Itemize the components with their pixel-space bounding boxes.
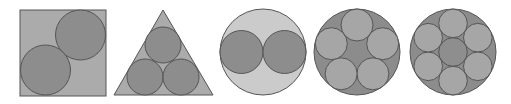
packed-circle — [367, 28, 399, 60]
packed-circle — [263, 31, 306, 74]
packed-circle — [163, 59, 199, 95]
center-circle — [439, 38, 468, 67]
packed-circle — [220, 31, 263, 74]
circle-with-2-circles — [220, 9, 306, 95]
circle-with-5-circles — [314, 9, 400, 95]
packed-circle — [464, 23, 493, 52]
packed-circle — [414, 52, 443, 81]
packed-circle — [439, 9, 468, 38]
packing-diagram — [0, 0, 511, 104]
diagram-stage — [0, 0, 511, 104]
square-with-2-circles — [20, 10, 106, 96]
triangle-with-3-circles — [114, 10, 213, 95]
circle-with-7-circles — [410, 9, 496, 95]
packed-circle — [127, 59, 163, 95]
packed-circle — [315, 28, 347, 60]
packed-circle — [357, 58, 389, 90]
packed-circle — [464, 52, 493, 81]
packed-circle — [325, 58, 357, 90]
packed-circle — [145, 27, 181, 63]
packed-circle — [414, 23, 443, 52]
packed-circle — [21, 45, 71, 95]
packed-circle — [439, 66, 468, 95]
